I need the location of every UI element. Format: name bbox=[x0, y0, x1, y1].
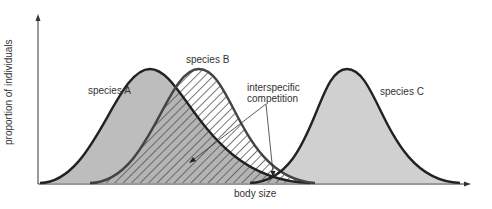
annotation-line-1: interspecific bbox=[247, 82, 300, 93]
species-c-label: species C bbox=[380, 86, 424, 97]
x-axis-label: body size bbox=[234, 188, 277, 199]
annotation-line-2: competition bbox=[247, 93, 298, 104]
species-a-label: species A bbox=[88, 85, 131, 96]
y-axis-arrow-icon bbox=[36, 14, 41, 21]
x-axis-arrow-icon bbox=[464, 182, 471, 187]
species-b-label: species B bbox=[186, 54, 230, 65]
y-axis-label: proportion of individuals bbox=[3, 39, 14, 145]
niche-overlap-diagram: species A species B species C interspeci… bbox=[0, 0, 492, 209]
